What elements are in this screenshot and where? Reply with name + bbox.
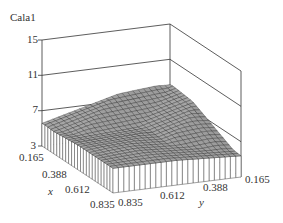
x-tick-3: 0.835 (90, 199, 115, 210)
x-axis-title: x (48, 186, 53, 197)
y-tick-0: 0.165 (245, 174, 270, 185)
surface-plot (0, 0, 283, 223)
z-tick-15: 15 (12, 34, 38, 45)
y-axis-title: y (199, 197, 204, 208)
y-tick-1: 0.388 (203, 182, 228, 193)
y-tick-3: 0.835 (118, 197, 143, 208)
z-axis-title: Cala1 (10, 12, 36, 23)
z-tick-7: 7 (12, 104, 38, 115)
y-tick-2: 0.612 (160, 190, 185, 201)
x-tick-1: 0.388 (42, 169, 67, 180)
z-tick-3: 3 (10, 140, 36, 151)
x-tick-0: 0.165 (19, 152, 44, 163)
z-tick-11: 11 (12, 69, 38, 80)
x-tick-2: 0.612 (65, 184, 90, 195)
